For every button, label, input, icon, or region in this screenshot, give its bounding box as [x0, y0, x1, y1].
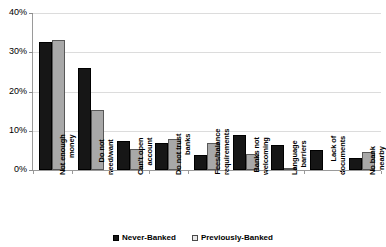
- y-axis-tick-label: 10%: [9, 126, 27, 135]
- bar-chart: 0%10%20%30%40% Not enoughmoneyDo notneed…: [0, 0, 386, 247]
- legend-label-never-banked: Never-Banked: [122, 234, 176, 242]
- x-axis-category-label: Banks notwelcoming: [253, 137, 270, 175]
- x-axis-category-label-line: money: [68, 134, 77, 175]
- x-axis-tick-mark: [33, 171, 34, 174]
- legend-item-never-banked: Never-Banked: [113, 234, 176, 242]
- x-axis-category-label-line: account: [145, 138, 154, 175]
- x-axis-tick-mark: [342, 171, 343, 174]
- x-axis-category-label-line: Can't open: [137, 138, 146, 175]
- x-axis-category-label-line: No bank: [369, 146, 378, 175]
- bar: [271, 145, 284, 171]
- x-axis-tick-mark: [304, 171, 305, 174]
- x-axis-category-label-line: Banks not: [253, 137, 262, 175]
- x-axis-category-label: Can't openaccount: [137, 138, 154, 175]
- legend-label-previously-banked: Previously-Banked: [201, 234, 273, 242]
- y-axis-tick-label: 40%: [9, 8, 27, 17]
- x-axis-tick-mark: [381, 171, 382, 174]
- chart-legend: Never-Banked Previously-Banked: [0, 231, 386, 245]
- y-axis: 0%10%20%30%40%: [0, 0, 30, 180]
- legend-item-previously-banked: Previously-Banked: [192, 234, 273, 242]
- bar: [310, 150, 323, 170]
- x-axis-category-label: Fees/balancerequirements: [214, 129, 231, 175]
- x-axis-category-label-line: banks: [184, 134, 193, 175]
- bar: [349, 158, 362, 170]
- x-axis-category-label: No banknearby: [369, 146, 386, 175]
- x-axis-tick-mark: [226, 171, 227, 174]
- y-axis-tick-mark: [29, 170, 33, 171]
- legend-swatch-never-banked-icon: [113, 235, 119, 241]
- y-axis-tick-mark: [29, 52, 33, 53]
- x-axis-category-label-line: barriers: [300, 140, 309, 175]
- y-axis-tick-label: 30%: [9, 47, 27, 56]
- x-axis-tick-mark: [188, 171, 189, 174]
- bar: [233, 135, 246, 170]
- y-axis-tick-mark: [29, 131, 33, 132]
- x-axis-tick-mark: [149, 171, 150, 174]
- x-axis-category-label-line: need/want: [107, 139, 116, 175]
- x-axis-category-label: Languagebarriers: [291, 140, 308, 175]
- bar: [39, 42, 52, 170]
- x-axis-tick-mark: [72, 171, 73, 174]
- y-axis-tick-mark: [29, 92, 33, 93]
- bar: [155, 143, 168, 170]
- x-axis-category-label-line: welcoming: [261, 137, 270, 175]
- y-axis-tick-label: 0%: [14, 165, 27, 174]
- bar: [117, 141, 130, 170]
- x-axis-category-label: Do not trustbanks: [175, 134, 192, 175]
- x-axis-category-label-line: requirements: [223, 129, 232, 175]
- x-axis-category-label: Not enoughmoney: [59, 134, 76, 175]
- x-axis-category-label: Do notneed/want: [98, 139, 115, 175]
- y-axis-tick-mark: [29, 13, 33, 14]
- bar: [78, 68, 91, 170]
- x-axis-tick-mark: [265, 171, 266, 174]
- bar: [194, 155, 207, 170]
- x-axis-category-label-line: documents: [339, 136, 348, 175]
- x-axis: Not enoughmoneyDo notneed/wantCan't open…: [33, 171, 381, 229]
- y-axis-tick-label: 20%: [9, 87, 27, 96]
- legend-swatch-previously-banked-icon: [192, 235, 198, 241]
- x-axis-category-label: Lack ofdocuments: [330, 136, 347, 175]
- x-axis-tick-mark: [110, 171, 111, 174]
